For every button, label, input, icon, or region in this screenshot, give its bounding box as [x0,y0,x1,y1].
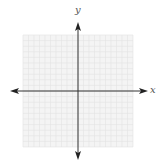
x-axis-label: x [150,84,156,95]
y-axis-label: y [75,4,81,15]
coordinate-plane [0,0,161,165]
